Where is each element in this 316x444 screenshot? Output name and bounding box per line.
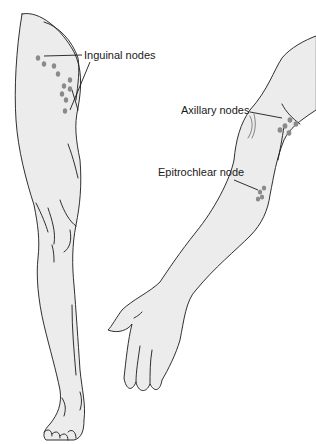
- anatomy-illustration: [0, 0, 316, 444]
- axillary-nodes-label: Axillary nodes: [181, 104, 249, 116]
- inguinal-nodes-label: Inguinal nodes: [84, 49, 156, 61]
- epitrochlear-node-label: Epitrochlear node: [158, 166, 244, 178]
- arm-illustration: [108, 36, 316, 391]
- leg-illustration: [15, 13, 84, 440]
